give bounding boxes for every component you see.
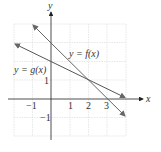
g-line (15, 44, 51, 62)
x-tick-2: 2 (86, 100, 91, 111)
f-label: y = f(x) (68, 48, 100, 60)
x-tick-3: 3 (104, 100, 109, 111)
y-tick-1: 1 (44, 75, 49, 86)
grid (14, 24, 126, 136)
g-label: y = g(x) (13, 64, 47, 76)
x-tick-1: 1 (68, 100, 73, 111)
y-axis-label: y (47, 0, 53, 11)
y-tick-neg1: −1 (40, 112, 51, 123)
x-tick-neg1: −1 (26, 100, 37, 111)
x-axis-label: x (145, 93, 151, 104)
f-line (33, 25, 51, 43)
g-line (51, 62, 125, 98)
graph-canvas: y x −1 1 2 3 1 −1 y = f(x) y = g(x) (0, 0, 161, 152)
